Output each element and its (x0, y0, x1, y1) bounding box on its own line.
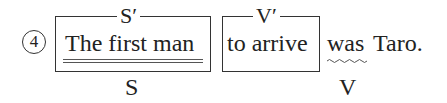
label-v-prime: V′ (253, 5, 280, 27)
label-v: V (339, 75, 356, 99)
wavy-underline (327, 58, 367, 64)
label-s-prime: S′ (117, 5, 140, 27)
item-number-circle: 4 (22, 30, 46, 54)
word-taro: Taro. (373, 30, 423, 56)
item-number: 4 (30, 32, 39, 51)
phrase-to-arrive: to arrive (227, 30, 308, 56)
word-was: was (327, 30, 364, 56)
label-s: S (125, 75, 138, 99)
phrase-the-first-man: The first man (65, 30, 194, 56)
double-underline (63, 59, 203, 63)
